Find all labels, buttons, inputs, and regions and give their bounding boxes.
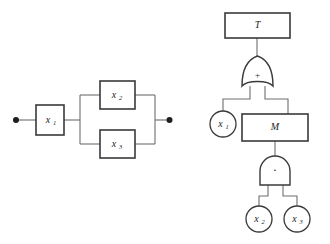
wire-or-to-M (265, 86, 288, 114)
block-x3-rect (100, 130, 135, 158)
wire-or-to-x1 (223, 86, 250, 111)
gate-and: · (260, 156, 290, 185)
basic-event-x1: x 1 (210, 111, 236, 137)
basic-event-x1-subscript: 1 (225, 123, 228, 130)
event-T: T (225, 13, 290, 38)
block-x1-subscript: 1 (53, 119, 56, 126)
basic-event-x3: x 3 (284, 206, 310, 232)
wire-and-to-x2 (259, 185, 268, 206)
fault-tree-panel: T + x 1 M · (210, 13, 310, 232)
block-x3: x 3 (100, 130, 135, 158)
basic-event-x2: x 2 (246, 206, 272, 232)
basic-event-x3-label: x (291, 213, 297, 224)
output-terminal (167, 117, 173, 123)
event-M: M (242, 114, 308, 141)
gate-or: + (242, 56, 273, 86)
basic-event-x3-circle (284, 206, 310, 232)
block-x2: x 2 (100, 81, 135, 109)
block-x3-label: x (111, 138, 117, 149)
basic-event-x1-circle (210, 111, 236, 137)
event-M-label: M (270, 121, 280, 132)
block-x1-label: x (45, 114, 51, 125)
block-x1: x 1 (36, 105, 64, 135)
reliability-block-diagram-panel: x 1 x 2 x 3 (13, 81, 173, 158)
wire-and-to-x3 (283, 185, 297, 206)
basic-event-x2-label: x (253, 213, 259, 224)
block-x2-label: x (111, 89, 117, 100)
basic-event-x2-circle (246, 206, 272, 232)
gate-or-symbol: + (255, 70, 260, 80)
gate-and-symbol: · (273, 162, 277, 177)
basic-event-x1-label: x (217, 118, 223, 129)
block-x2-rect (100, 81, 135, 109)
figure-root: x 1 x 2 x 3 (0, 0, 330, 244)
figure-svg: x 1 x 2 x 3 (0, 0, 330, 244)
input-terminal (13, 117, 19, 123)
